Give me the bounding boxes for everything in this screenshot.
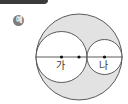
- circle-diagram: 가 나: [0, 0, 128, 104]
- label-ga: 가: [56, 60, 65, 71]
- center-point-ga: [60, 55, 63, 58]
- center-point-na: [103, 55, 106, 58]
- label-na: 나: [99, 60, 108, 71]
- center-point-outer: [77, 55, 80, 58]
